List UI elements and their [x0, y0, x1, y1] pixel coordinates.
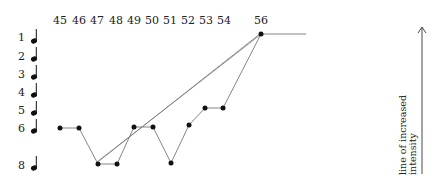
contour-plot [0, 0, 447, 186]
intensity-double-line [97, 33, 261, 162]
quarter-note-icon [31, 29, 37, 44]
intensity-label: line of increased intensity [398, 95, 418, 175]
quarter-note-icon [31, 83, 37, 98]
quarter-note-icon [31, 65, 37, 80]
quarter-note-icon [31, 156, 37, 171]
up-arrow-icon [418, 27, 426, 174]
quarter-note-icons [31, 29, 37, 171]
quarter-note-icon [31, 101, 37, 116]
contour-line [60, 34, 306, 164]
quarter-note-icon [31, 47, 37, 62]
quarter-note-icon [31, 119, 37, 134]
